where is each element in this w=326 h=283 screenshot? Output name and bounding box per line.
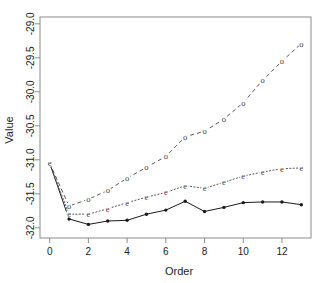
chart-container: 024681012 -32.0-31.5-31.0-30.5-30.0-29.5… [0, 0, 326, 283]
dotted-e-marker-series: eeeeeeeeeeeeee [46, 158, 304, 219]
data-point-marker: o [86, 194, 90, 204]
x-tick-label: 2 [86, 246, 92, 257]
data-point-marker: e [145, 192, 149, 202]
y-tick-label: -32.0 [26, 216, 37, 239]
data-point-marker: o [183, 132, 187, 142]
data-point-marker: e [86, 209, 90, 219]
data-point [106, 219, 109, 222]
x-tick-label: 12 [276, 246, 288, 257]
x-axis-title: Order [165, 265, 193, 277]
data-point [300, 203, 303, 206]
data-point-marker: e [106, 204, 110, 214]
y-axis-title: Value [3, 116, 15, 143]
plot-frame [40, 17, 311, 238]
data-point-marker: e [299, 163, 303, 173]
x-tick-label: 8 [202, 246, 208, 257]
data-point-marker: e [280, 164, 284, 174]
x-tick-label: 6 [163, 246, 169, 257]
data-series-group: ooooooooooooooeeeeeeeeeeeeee [46, 39, 304, 227]
data-point-marker: e [241, 171, 245, 181]
data-point-marker: o [299, 39, 303, 49]
data-point-marker: o [260, 75, 264, 85]
x-tick-label: 4 [124, 246, 130, 257]
data-point [183, 200, 186, 203]
plot-border [40, 17, 311, 238]
data-point [87, 223, 90, 226]
data-point-marker: e [67, 209, 71, 219]
y-tick-label: -31.5 [26, 182, 37, 205]
data-point-marker: o [125, 173, 129, 183]
data-point-marker: e [222, 177, 226, 187]
data-point-marker: e [183, 181, 187, 191]
data-point-marker: e [164, 187, 168, 197]
data-point-marker: o [144, 162, 148, 172]
x-tick-label: 0 [47, 246, 53, 257]
data-point [222, 206, 225, 209]
dashed-o-marker-series: oooooooooooooo [46, 39, 304, 212]
data-point [164, 208, 167, 211]
y-tick-label: -30.5 [26, 114, 37, 137]
y-axis-ticks: -32.0-31.5-31.0-30.5-30.0-29.5-29.0 [26, 12, 41, 239]
data-point-marker: e [125, 198, 129, 208]
data-point-marker: o [106, 185, 110, 195]
y-tick-label: -31.0 [26, 148, 37, 171]
y-tick-label: -29.0 [26, 12, 37, 35]
data-point-marker: e [261, 167, 265, 177]
data-point-marker: e [203, 183, 207, 193]
x-axis-ticks: 024681012 [47, 238, 288, 257]
data-point [145, 213, 148, 216]
data-point-marker: o [222, 114, 226, 124]
data-point [242, 201, 245, 204]
data-point [203, 210, 206, 213]
data-point-marker: o [202, 126, 206, 136]
series-line [50, 44, 302, 207]
line-chart-plot: 024681012 -32.0-31.5-31.0-30.5-30.0-29.5… [0, 0, 326, 283]
data-point-marker: e [48, 158, 52, 168]
data-point-marker: o [280, 56, 284, 66]
data-point [261, 200, 264, 203]
data-point [280, 200, 283, 203]
data-point [125, 219, 128, 222]
data-point-marker: o [241, 98, 245, 108]
y-tick-label: -30.0 [26, 80, 37, 103]
data-point-marker: o [164, 151, 168, 161]
y-tick-label: -29.5 [26, 46, 37, 69]
x-tick-label: 10 [238, 246, 250, 257]
